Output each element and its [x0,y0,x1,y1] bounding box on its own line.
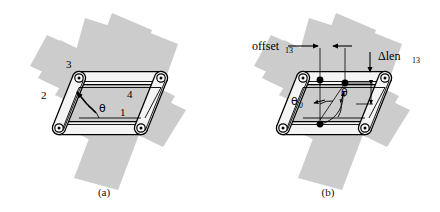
pivot-joint-top-left [75,74,83,82]
link-2-label: 2 [41,89,47,101]
dlen-label: Δlen [378,49,400,63]
link-3-label: 3 [66,58,72,70]
panel-b-pivot-bottom-right [361,124,369,132]
link-1-label: 1 [120,106,126,118]
panel-b-caption: (b) [322,186,335,199]
panel-a-caption: (a) [98,186,111,199]
panel-b-pivot-bottom-left [279,124,287,132]
panel-b-pivot-top-left [299,74,307,82]
panel-b-theta-label: θ [341,86,348,99]
theta-zero-label: θ [291,95,298,108]
link-4-label: 4 [127,88,133,100]
pivot-joint-bottom-right [137,124,145,132]
dlen-subscript: 13 [412,56,420,65]
dot-top-reference [317,77,324,84]
panel-a-theta-label: θ [99,102,106,115]
figure-root: 3 2 1 4 θ (a) [0,0,440,212]
panel-b-pivot-top-right [381,74,389,82]
pivot-joint-top-right [157,74,165,82]
offset-subscript: 13 [285,46,293,55]
pivot-joint-bottom-left [55,124,63,132]
theta-zero-subscript: 0 [299,101,303,110]
offset-label: offset [252,39,280,53]
